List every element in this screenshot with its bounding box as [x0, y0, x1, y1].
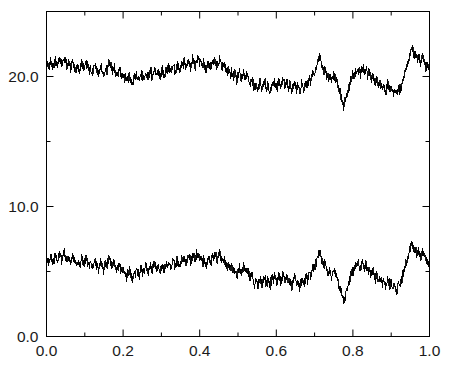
x-tick-label: 0.0 [36, 342, 58, 359]
y-tick-label: 20.0 [8, 68, 39, 85]
x-tick-label: 1.0 [419, 342, 441, 359]
x-tick-label: 0.6 [266, 342, 288, 359]
x-tick-label: 0.8 [342, 342, 364, 359]
chart-canvas: 0.00.20.40.60.81.0 0.010.020.0 [0, 0, 450, 367]
chart-figure: 0.00.20.40.60.81.0 0.010.020.0 [0, 0, 450, 367]
y-tick-label: 0.0 [17, 328, 39, 345]
x-tick-label: 0.2 [112, 342, 134, 359]
y-tick-label: 10.0 [8, 198, 39, 215]
figure-background [0, 0, 450, 367]
x-tick-label: 0.4 [189, 342, 211, 359]
